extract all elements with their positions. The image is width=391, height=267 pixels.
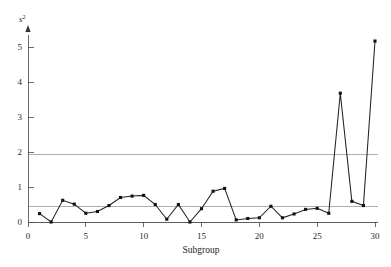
y-tick-label-4: 4: [18, 77, 23, 87]
y-axis-title-superscript: 2: [23, 14, 26, 20]
data-point-5: [84, 212, 87, 215]
data-point-20: [258, 216, 261, 219]
x-tick-label-20: 20: [255, 231, 265, 241]
s2-control-chart: 012345 051015202530 Subgroup s2: [0, 0, 391, 267]
data-point-21: [269, 205, 272, 208]
y-tick-label-2: 2: [18, 147, 23, 157]
data-point-30: [373, 40, 376, 43]
y-axis-ticks: 012345: [18, 42, 35, 227]
data-point-1: [38, 212, 41, 215]
data-point-24: [304, 208, 307, 211]
data-point-16: [212, 190, 215, 193]
y-axis: [25, 25, 30, 222]
y-tick-label-1: 1: [18, 182, 23, 192]
data-point-9: [131, 195, 134, 198]
data-point-12: [165, 218, 168, 221]
data-point-25: [316, 207, 319, 210]
x-tick-label-0: 0: [26, 231, 31, 241]
data-point-27: [339, 92, 342, 95]
x-tick-label-5: 5: [84, 231, 89, 241]
data-point-26: [327, 212, 330, 215]
x-tick-label-30: 30: [371, 231, 381, 241]
data-point-17: [223, 187, 226, 190]
y-tick-label-5: 5: [18, 42, 23, 52]
data-point-15: [200, 207, 203, 210]
x-tick-label-10: 10: [139, 231, 149, 241]
data-point-4: [73, 203, 76, 206]
data-point-10: [142, 194, 145, 197]
y-tick-label-0: 0: [18, 217, 23, 227]
data-point-18: [235, 218, 238, 221]
y-axis-arrow-icon: [25, 25, 30, 32]
data-point-13: [177, 203, 180, 206]
chart-figure: 012345 051015202530 Subgroup s2: [0, 0, 391, 267]
data-point-6: [96, 210, 99, 213]
data-point-19: [246, 217, 249, 220]
data-point-3: [61, 199, 64, 202]
data-point-2: [50, 220, 53, 223]
x-axis-title: Subgroup: [183, 245, 220, 255]
y-axis-title: s2: [19, 14, 26, 25]
data-point-28: [350, 200, 353, 203]
data-point-14: [188, 220, 191, 223]
x-axis-ticks: 051015202530: [26, 222, 380, 241]
data-point-22: [281, 216, 284, 219]
series-markers-s2: [38, 40, 377, 224]
data-series-s2: [38, 40, 377, 224]
data-point-23: [292, 212, 295, 215]
data-point-29: [362, 204, 365, 207]
x-tick-label-15: 15: [197, 231, 207, 241]
data-point-11: [154, 203, 157, 206]
data-point-8: [119, 196, 122, 199]
y-tick-label-3: 3: [18, 112, 23, 122]
x-tick-label-25: 25: [313, 231, 323, 241]
series-line-s2: [40, 41, 375, 222]
data-point-7: [107, 204, 110, 207]
